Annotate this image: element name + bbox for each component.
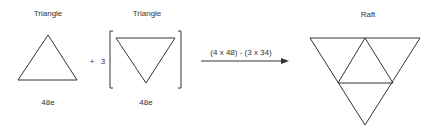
left-triangle-value: 48e: [41, 98, 54, 107]
left-triangle-title: Triangle: [34, 9, 63, 18]
upright-triangle-shape: [18, 35, 77, 80]
diagram-canvas: [0, 0, 428, 132]
raft-title: Raft: [361, 10, 376, 19]
right-bracket: [178, 31, 181, 88]
plus-sign: +: [90, 57, 95, 66]
inverted-triangle-shape: [116, 38, 175, 83]
bracket-triangle-title: Triangle: [133, 9, 162, 18]
left-bracket: [110, 31, 113, 88]
multiplier: 3: [101, 57, 105, 66]
arrow-head-icon: [281, 58, 289, 64]
raft-shape: [310, 38, 420, 125]
arrow-label: (4 x 48) - (3 x 34): [210, 48, 271, 57]
bracket-triangle-value: 48e: [139, 98, 152, 107]
